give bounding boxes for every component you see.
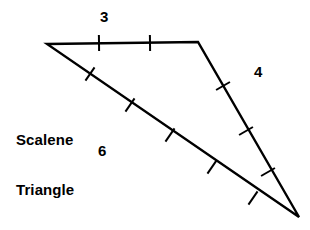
tick-mark <box>248 191 257 204</box>
side-length-label-right: 4 <box>254 64 262 81</box>
tick-mark <box>85 67 94 80</box>
side-length-label-top: 3 <box>100 9 108 26</box>
side-length-label-bottom: 6 <box>98 143 106 160</box>
shape-name-label: Scalene Triangle <box>16 98 74 230</box>
tick-mark <box>165 128 174 141</box>
shape-name-line-2: Triangle <box>16 182 74 199</box>
shape-name-line-1: Scalene <box>16 132 74 149</box>
diagram-canvas: 3 4 6 Scalene Triangle <box>0 0 310 230</box>
tick-mark <box>207 160 216 173</box>
